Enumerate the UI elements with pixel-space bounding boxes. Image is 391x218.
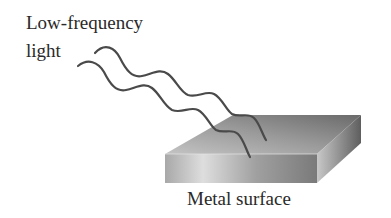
metal-surface-label: Metal surface [187, 188, 291, 210]
metal-front-face [165, 154, 317, 183]
light-label-line2: light [26, 40, 61, 62]
metal-slab [165, 115, 361, 183]
light-label-line1: Low-frequency [26, 12, 143, 34]
